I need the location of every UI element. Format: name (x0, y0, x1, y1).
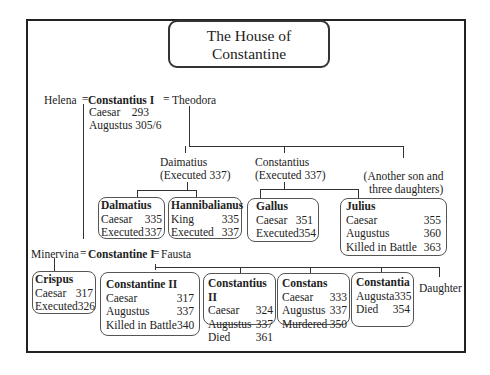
daughter-label: Daughter (419, 282, 462, 295)
helena-label: Helena (44, 94, 77, 107)
daimatius-children-bar (137, 190, 197, 191)
theodora-label: Theodora (172, 94, 216, 107)
person-box-crispus: Crispus Caesar317 Executed326 (32, 271, 96, 314)
gallus-drop (260, 189, 261, 198)
person-box-constans: Constans Caesar333 Augustus337 Murdered3… (277, 273, 350, 325)
person-box-constantia: Constantia Augusta335 Died354 (351, 272, 414, 327)
person-box-constantine-ii: Constantine II Caesar317 Augustus337 Kil… (100, 272, 200, 336)
daimatius-descent (187, 182, 188, 190)
constantius-label: Constantius (Executed 337) (255, 156, 326, 182)
other-children-label: (Another son and three daughters) (361, 170, 443, 196)
marriage-sign: = (80, 247, 87, 260)
marriage-sign: = (153, 247, 160, 260)
hannibalianus-drop (196, 190, 197, 197)
other-children-drop (403, 146, 404, 158)
person-box-constantius-ii: Constantius II Caesar324 Augustus337 Die… (203, 273, 276, 325)
helena-descent-line (83, 104, 84, 239)
title-box: The House of Constantine (168, 20, 330, 68)
daimatius-drop (185, 146, 186, 153)
daughter-drop (439, 267, 440, 277)
theodora-children-bar (189, 146, 404, 147)
fausta-children-bar (155, 267, 440, 268)
marriage-sign: = (163, 93, 170, 106)
theodora-descent-line (189, 106, 190, 146)
person-box-julius: Julius Caesar355 Augustus360 Killed in B… (340, 198, 447, 256)
dalmatius-drop (137, 190, 138, 197)
title-line-1: The House of (170, 27, 328, 45)
title-line-2: Constantine (170, 45, 328, 63)
constantius-children-bar (260, 189, 359, 190)
person-box-gallus: Gallus Caesar351 Executed354 (247, 198, 319, 242)
julius-drop (358, 189, 359, 198)
fausta-label: Fausta (161, 248, 191, 261)
daimatius-label: Daimatius (Executed 337) (160, 156, 231, 182)
constantius-i-role-augustus: Augustus 305/6 (89, 119, 162, 132)
constantine-i-name: Constantine I (88, 248, 155, 261)
person-box-hannibalianus: Hannibalianus King335 Executed337 (168, 197, 242, 239)
constantius-drop (284, 146, 285, 153)
person-box-dalmatius: Dalmatius Caesar335 Executed337 (98, 197, 165, 239)
constantius-i-role-caesar: Caesar 293 (89, 106, 145, 119)
